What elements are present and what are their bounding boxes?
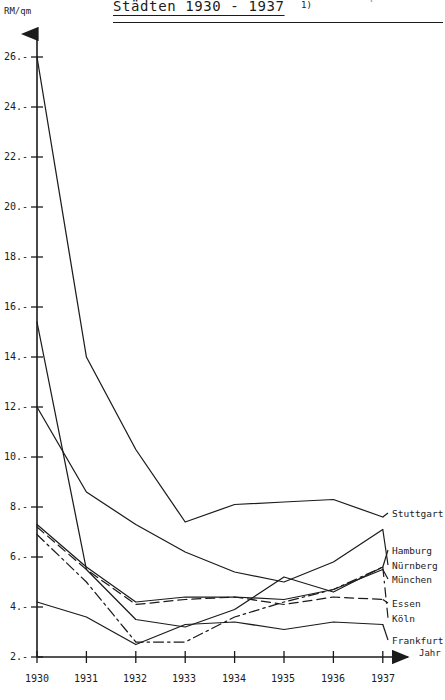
leader-line: [383, 600, 388, 604]
series-line-hamburg: [37, 322, 383, 627]
plot-area: [0, 0, 445, 700]
series-line-stuttgart: [37, 57, 383, 522]
label-leader-lines: [383, 513, 388, 640]
chart-figure: durchschnittliche Bodenpreise in Städten…: [0, 0, 445, 700]
series-line-frankfurt: [37, 602, 383, 645]
series-line-nurnberg: [37, 407, 383, 582]
series-line-koln: [37, 535, 383, 643]
axis-lines: [37, 34, 408, 657]
leader-line: [383, 625, 388, 641]
leader-line: [383, 513, 388, 517]
series-line-essen: [37, 527, 383, 605]
series-lines: [37, 57, 383, 645]
